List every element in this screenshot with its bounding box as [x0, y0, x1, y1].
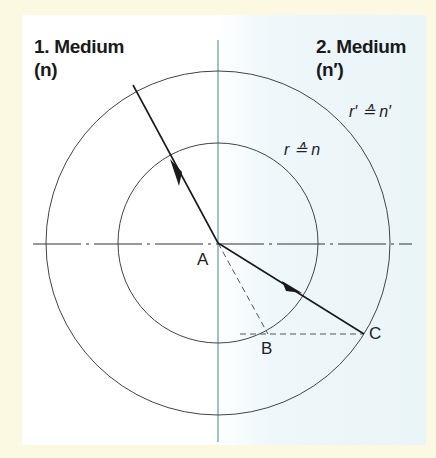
inner-radius-label: r ≙ n: [284, 140, 320, 159]
medium-2-label: 2. Medium (n′): [316, 35, 406, 81]
point-a-label: A: [197, 250, 208, 270]
point-c-label: C: [369, 324, 381, 344]
point-b-label: B: [261, 339, 272, 359]
incident-ray: [133, 85, 218, 243]
medium-1-index: (n): [34, 58, 124, 81]
construction-line-ab: [218, 243, 268, 334]
medium-1-label: 1. Medium (n): [34, 35, 124, 81]
refracted-arrow-icon: [282, 281, 302, 293]
outer-radius-label: r′ ≙ n′: [349, 102, 391, 121]
incident-arrow-icon: [170, 159, 182, 186]
medium-2-title: 2. Medium: [316, 35, 406, 58]
medium-2-index: (n′): [316, 58, 406, 81]
medium-1-title: 1. Medium: [34, 35, 124, 58]
